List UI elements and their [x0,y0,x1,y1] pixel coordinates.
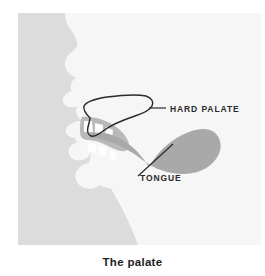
tongue-label: TONGUE [140,173,182,183]
palate-figure: HARD PALATE TONGUE The palate [0,0,265,276]
anatomy-illustration: HARD PALATE TONGUE [18,13,261,245]
figure-caption: The palate [0,256,265,268]
hard-palate-label: HARD PALATE [170,104,240,114]
illustration-panel: HARD PALATE TONGUE [18,13,261,245]
